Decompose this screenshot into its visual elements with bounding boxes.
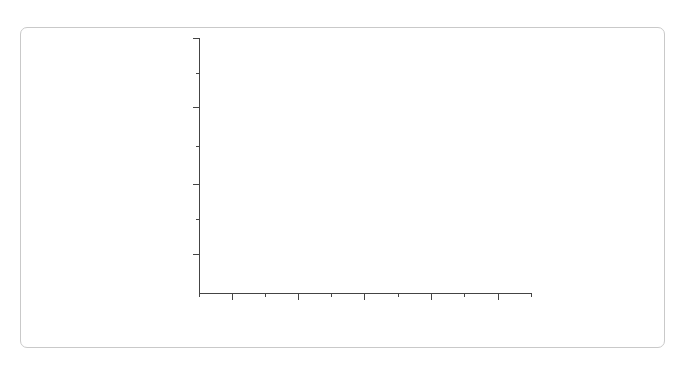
series-plot xyxy=(21,28,666,313)
chart-plot-area xyxy=(21,28,666,313)
figure-panel xyxy=(20,27,665,348)
